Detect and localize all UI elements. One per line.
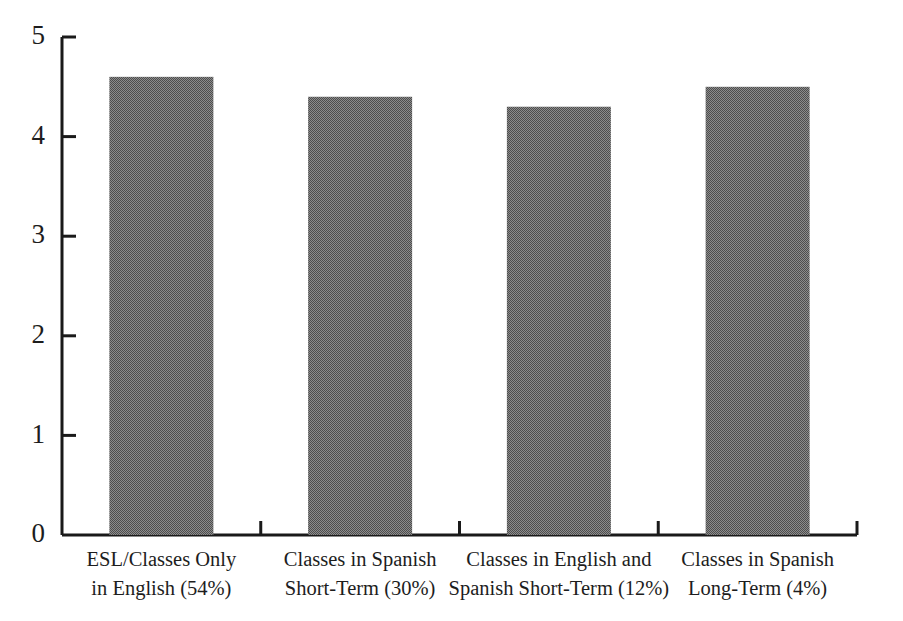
x-category-label: Classes in Spanish xyxy=(284,548,437,571)
x-category-labels: ESL/Classes Onlyin English (54%)Classes … xyxy=(86,548,833,600)
chart-canvas: 012345 ESL/Classes Onlyin English (54%)C… xyxy=(0,0,903,621)
y-tick-label-3: 3 xyxy=(32,219,46,249)
x-category-label: Spanish Short-Term (12%) xyxy=(449,577,670,600)
y-tick-label-0: 0 xyxy=(32,518,46,548)
y-axis xyxy=(62,37,76,535)
bar xyxy=(109,77,213,535)
x-category-label: Classes in English and xyxy=(466,548,651,571)
bar-series xyxy=(109,77,809,535)
x-category-label: Long-Term (4%) xyxy=(688,577,827,600)
y-tick-label-5: 5 xyxy=(32,20,46,50)
x-category-label: in English (54%) xyxy=(91,577,231,600)
x-category-label: ESL/Classes Only xyxy=(86,548,237,571)
x-category-label: Classes in Spanish xyxy=(681,548,834,571)
bar xyxy=(706,87,810,535)
bar xyxy=(308,97,412,535)
x-category-label: Short-Term (30%) xyxy=(285,577,436,600)
y-tick-labels: 012345 xyxy=(32,20,46,548)
bar xyxy=(507,107,611,535)
bar-chart: 012345 ESL/Classes Onlyin English (54%)C… xyxy=(0,0,903,621)
y-tick-label-1: 1 xyxy=(32,419,46,449)
y-tick-label-4: 4 xyxy=(32,120,46,150)
y-tick-label-2: 2 xyxy=(32,319,46,349)
